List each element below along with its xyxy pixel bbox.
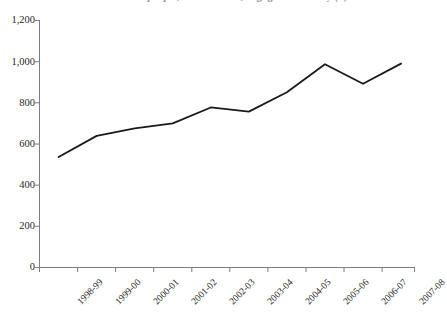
x-tick-label: 2006-07	[379, 277, 408, 306]
x-tick-label: 2000-01	[151, 277, 180, 306]
x-tick-label: 2002-03	[227, 277, 256, 306]
x-tick-label: 2003-04	[265, 277, 294, 306]
x-tick-label: 2007-08	[417, 277, 446, 306]
x-tick-label: 2005-06	[341, 277, 370, 306]
x-tick-label: 1998-99	[75, 277, 104, 306]
x-tick-label: 1999-00	[113, 277, 142, 306]
x-tick-label: 2004-05	[303, 277, 332, 306]
x-tick-label: 2001-02	[189, 277, 218, 306]
